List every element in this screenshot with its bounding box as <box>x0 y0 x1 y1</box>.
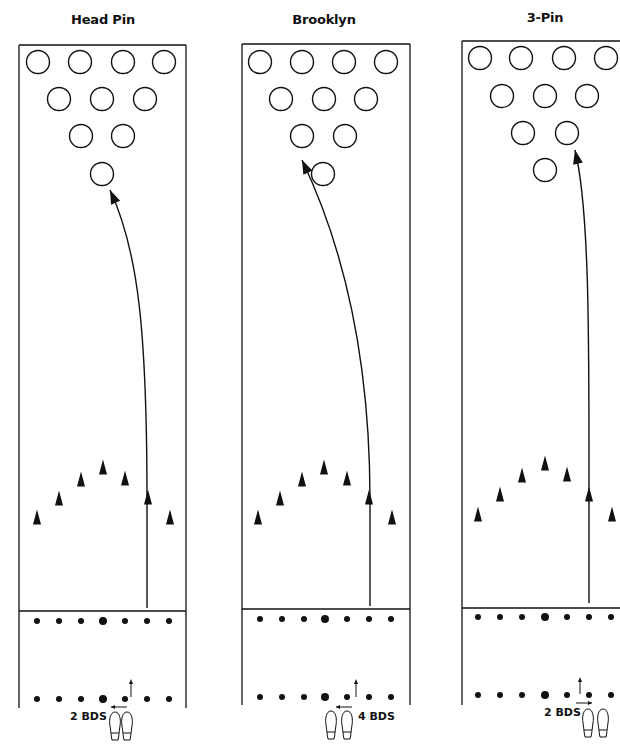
target-arrow-4-icon <box>541 456 549 471</box>
lane-title-brooklyn: Brooklyn <box>274 12 374 27</box>
arrow-dot-2 <box>279 616 285 622</box>
approach-dot-1 <box>475 692 481 698</box>
arrow-dot-5 <box>122 618 128 624</box>
diagram-canvas <box>0 0 620 745</box>
arrow-dot-4 <box>541 613 549 621</box>
stance-up-arrowhead-icon <box>129 679 133 684</box>
approach-dot-4 <box>541 691 549 699</box>
target-arrow-7-icon <box>608 507 616 522</box>
board-shift-arrowhead-icon <box>588 701 592 705</box>
lane-title-3-pin: 3-Pin <box>495 10 595 25</box>
pin-4-brooklyn <box>375 51 398 74</box>
approach-dot-2 <box>56 696 62 702</box>
board-shift-arrowhead-icon <box>111 705 115 709</box>
target-arrow-1-icon <box>33 510 41 525</box>
pin-2-three-pin <box>510 47 533 70</box>
approach-dot-6 <box>144 696 150 702</box>
target-arrow-7-icon <box>388 510 396 525</box>
arrow-dot-2 <box>56 618 62 624</box>
approach-dot-2 <box>497 692 503 698</box>
arrow-dot-5 <box>564 614 570 620</box>
boards-label-3-pin: 2 BDS <box>544 706 581 719</box>
pin-4-head-pin <box>153 51 176 74</box>
right-foot-icon <box>598 709 609 737</box>
target-arrow-2-icon <box>276 491 284 506</box>
approach-dot-1 <box>34 696 40 702</box>
arrow-dot-3 <box>519 614 525 620</box>
right-foot-icon <box>342 711 353 739</box>
approach-dot-5 <box>564 692 570 698</box>
approach-dot-7 <box>388 694 394 700</box>
pin-4-three-pin <box>595 47 618 70</box>
arrow-dot-6 <box>144 618 150 624</box>
target-arrow-2-icon <box>496 487 504 502</box>
target-arrow-2-icon <box>55 491 63 506</box>
approach-dot-6 <box>586 692 592 698</box>
target-arrow-4-icon <box>320 460 328 475</box>
arrow-dot-7 <box>388 616 394 622</box>
approach-dot-4 <box>321 693 329 701</box>
approach-dot-7 <box>608 692 614 698</box>
ball-path-brooklyn <box>302 160 370 606</box>
pin-3-head-pin <box>112 51 135 74</box>
arrow-dot-6 <box>586 614 592 620</box>
pin-10-head-pin <box>91 163 114 186</box>
approach-dot-3 <box>78 696 84 702</box>
left-foot-icon <box>326 711 337 739</box>
arrow-dot-5 <box>344 616 350 622</box>
ball-path-arrowhead-icon <box>110 190 120 205</box>
pin-9-three-pin <box>556 122 579 145</box>
target-arrow-5-icon <box>121 471 129 486</box>
arrow-dot-3 <box>78 618 84 624</box>
pin-9-brooklyn <box>334 125 357 148</box>
pin-5-head-pin <box>48 88 71 111</box>
approach-dot-5 <box>122 696 128 702</box>
pin-7-three-pin <box>576 85 599 108</box>
pin-6-brooklyn <box>313 88 336 111</box>
ball-path-arrowhead-icon <box>302 160 312 175</box>
pin-10-brooklyn <box>312 163 335 186</box>
board-shift-arrowhead-icon <box>336 705 340 709</box>
arrow-dot-4 <box>321 615 329 623</box>
target-arrow-1-icon <box>254 510 262 525</box>
boards-label-brooklyn: 4 BDS <box>358 710 395 723</box>
target-arrow-3-icon <box>77 472 85 487</box>
lane-title-head-pin: Head Pin <box>53 12 153 27</box>
arrow-dot-4 <box>99 617 107 625</box>
approach-dot-5 <box>344 694 350 700</box>
arrow-dot-7 <box>166 618 172 624</box>
stance-up-arrowhead-icon <box>578 677 582 682</box>
pin-6-three-pin <box>534 85 557 108</box>
pin-2-brooklyn <box>291 51 314 74</box>
ball-path-head-pin <box>110 190 147 608</box>
spare-diagram: Head Pin Brooklyn 3-Pin 2 BDS 4 BDS 2 BD… <box>0 0 620 745</box>
right-foot-icon <box>122 712 133 740</box>
pin-7-brooklyn <box>355 88 378 111</box>
pin-8-three-pin <box>512 122 535 145</box>
target-arrow-6-icon <box>144 490 152 505</box>
pin-1-head-pin <box>27 51 50 74</box>
arrow-dot-1 <box>257 616 263 622</box>
target-arrow-7-icon <box>166 510 174 525</box>
approach-dot-3 <box>301 694 307 700</box>
boards-label-head-pin: 2 BDS <box>70 710 107 723</box>
arrow-dot-3 <box>301 616 307 622</box>
pin-9-head-pin <box>112 125 135 148</box>
pin-5-brooklyn <box>270 88 293 111</box>
stance-up-arrowhead-icon <box>354 679 358 684</box>
pin-10-three-pin <box>534 159 557 182</box>
pin-5-three-pin <box>491 85 514 108</box>
target-arrow-4-icon <box>99 460 107 475</box>
pin-1-brooklyn <box>249 51 272 74</box>
pin-6-head-pin <box>91 88 114 111</box>
approach-dot-6 <box>366 694 372 700</box>
pin-1-three-pin <box>469 47 492 70</box>
approach-dot-4 <box>99 695 107 703</box>
ball-path-arrowhead-icon <box>573 150 583 165</box>
arrow-dot-7 <box>608 614 614 620</box>
pin-2-head-pin <box>69 51 92 74</box>
pin-8-head-pin <box>70 125 93 148</box>
arrow-dot-1 <box>34 618 40 624</box>
approach-dot-7 <box>166 696 172 702</box>
left-foot-icon <box>110 712 121 740</box>
